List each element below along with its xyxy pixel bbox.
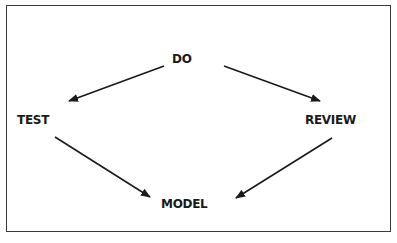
arrow-test-to-model xyxy=(55,137,150,197)
node-test: TEST xyxy=(17,113,49,127)
node-review: REVIEW xyxy=(305,113,356,127)
node-do: DO xyxy=(172,52,192,66)
arrow-review-to-model xyxy=(236,138,332,198)
arrow-do-to-review xyxy=(224,66,320,101)
node-model: MODEL xyxy=(161,197,207,211)
arrow-do-to-test xyxy=(69,66,164,101)
